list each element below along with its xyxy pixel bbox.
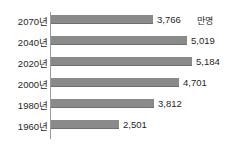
bar-chart: 만명 2070년3,7662040년5,0192020년5,1842000년4,… [0, 0, 242, 144]
bar [51, 99, 154, 108]
bar [51, 36, 187, 45]
value-label: 2,501 [123, 119, 147, 130]
value-label: 5,184 [196, 56, 220, 67]
bar-row: 2020년5,184 [0, 54, 242, 75]
bar-row: 2000년4,701 [0, 75, 242, 96]
category-label: 2040년 [18, 35, 48, 49]
value-label: 3,812 [158, 98, 182, 109]
bar-row: 1960년2,501 [0, 117, 242, 138]
category-label: 1960년 [18, 119, 48, 133]
value-label: 3,766 [157, 14, 181, 25]
bar [51, 57, 192, 66]
value-label: 5,019 [191, 35, 215, 46]
category-label: 1980년 [18, 98, 48, 112]
category-label: 2070년 [18, 14, 48, 28]
bar [51, 15, 153, 24]
category-label: 2000년 [18, 77, 48, 91]
bar-rows: 2070년3,7662040년5,0192020년5,1842000년4,701… [0, 12, 242, 138]
value-label: 4,701 [183, 77, 207, 88]
bar-row: 2040년5,019 [0, 33, 242, 54]
bar [51, 78, 179, 87]
category-label: 2020년 [18, 56, 48, 70]
bar-row: 2070년3,766 [0, 12, 242, 33]
bar-row: 1980년3,812 [0, 96, 242, 117]
bar [51, 120, 119, 129]
